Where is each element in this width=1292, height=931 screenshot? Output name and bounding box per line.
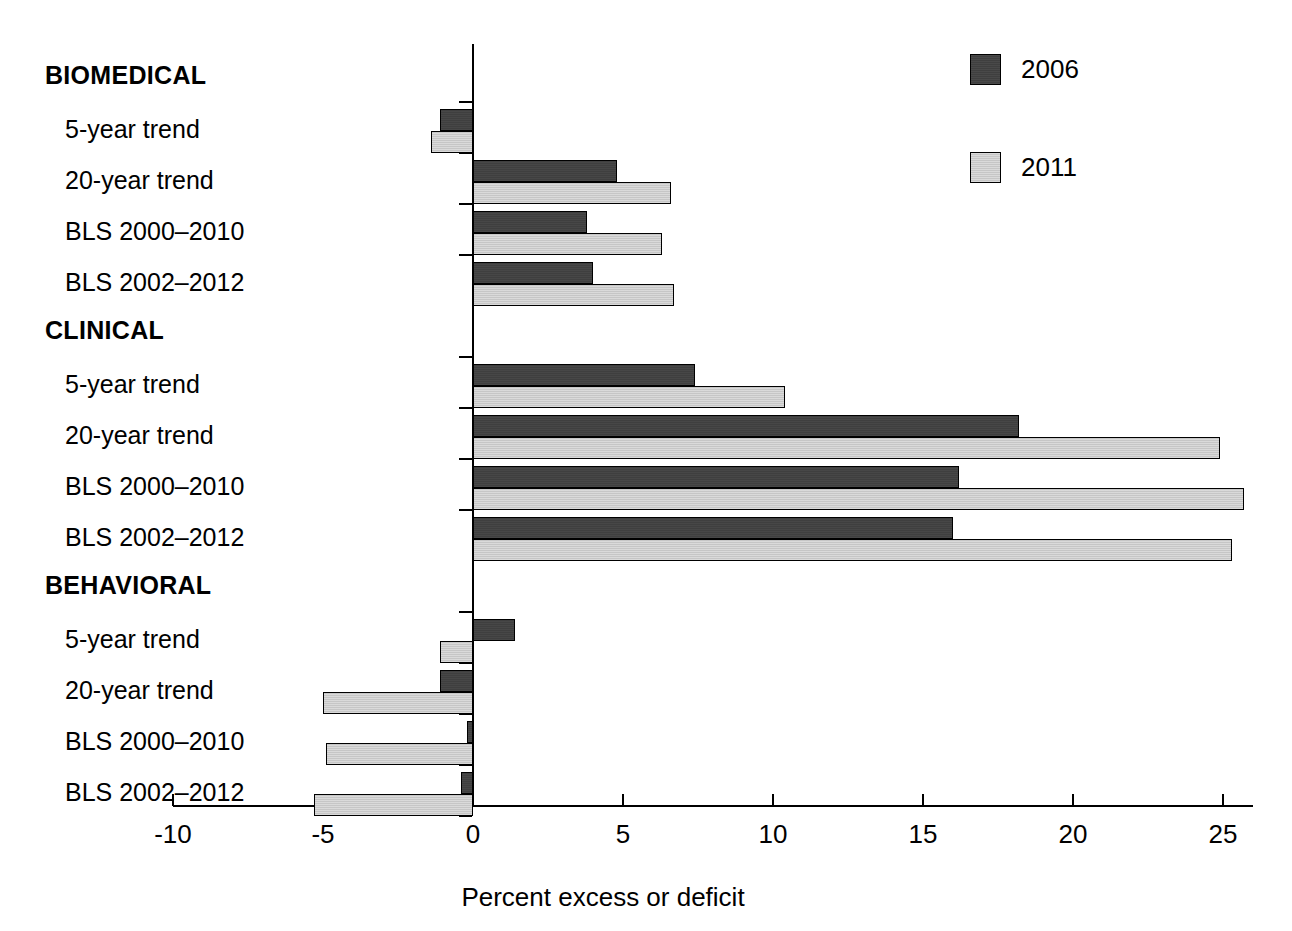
x-tick-label: 5 <box>616 819 630 850</box>
bar-2006 <box>473 160 617 182</box>
legend-swatch-2006 <box>970 54 1001 85</box>
x-axis-title: Percent excess or deficit <box>461 882 744 913</box>
legend-item-2006[interactable]: 2006 <box>970 54 1079 85</box>
legend-label-2011: 2011 <box>1021 152 1077 183</box>
bar-2006 <box>473 364 695 386</box>
x-tick <box>622 794 624 806</box>
bar-2006 <box>440 670 473 692</box>
bar-2011 <box>323 692 473 714</box>
x-tick-label: 10 <box>759 819 788 850</box>
group-header-biomedical: BIOMEDICAL <box>45 61 206 90</box>
x-tick-label: -5 <box>311 819 334 850</box>
bar-2006 <box>473 262 593 284</box>
legend-item-2011[interactable]: 2011 <box>970 152 1077 183</box>
x-tick-label: 15 <box>909 819 938 850</box>
bar-chart: BIOMEDICAL5-year trend20-year trendBLS 2… <box>0 0 1292 931</box>
bar-2006 <box>473 466 959 488</box>
bar-2011 <box>473 284 674 306</box>
y-tick <box>459 356 472 358</box>
group-header-behavioral: BEHAVIORAL <box>45 571 211 600</box>
row-label: BLS 2000–2010 <box>65 727 244 756</box>
y-tick <box>459 203 472 205</box>
bar-2006 <box>473 619 515 641</box>
x-tick <box>1072 794 1074 806</box>
row-label: BLS 2002–2012 <box>65 523 244 552</box>
bar-2011 <box>326 743 473 765</box>
bar-2011 <box>314 794 473 816</box>
row-label: 5-year trend <box>65 625 200 654</box>
plot-area: BIOMEDICAL5-year trend20-year trendBLS 2… <box>0 0 1292 931</box>
row-label: BLS 2002–2012 <box>65 778 244 807</box>
bar-2006 <box>473 211 587 233</box>
bar-2006 <box>473 415 1019 437</box>
legend-swatch-2011 <box>970 152 1001 183</box>
row-label: 20-year trend <box>65 676 214 705</box>
bar-2011 <box>473 182 671 204</box>
bar-2006 <box>440 109 473 131</box>
bar-2006 <box>461 772 473 794</box>
x-tick <box>772 794 774 806</box>
bar-2011 <box>473 539 1232 561</box>
bar-2011 <box>473 437 1220 459</box>
bar-2006 <box>467 721 473 743</box>
x-tick-label: -10 <box>154 819 192 850</box>
y-tick <box>459 407 472 409</box>
y-tick <box>459 254 472 256</box>
y-tick <box>459 509 472 511</box>
x-tick-label: 0 <box>466 819 480 850</box>
row-label: 5-year trend <box>65 370 200 399</box>
bar-2011 <box>440 641 473 663</box>
x-tick <box>1222 794 1224 806</box>
x-tick <box>922 794 924 806</box>
row-label: BLS 2002–2012 <box>65 268 244 297</box>
row-label: 20-year trend <box>65 166 214 195</box>
bar-2006 <box>473 517 953 539</box>
bar-2011 <box>473 488 1244 510</box>
y-tick <box>459 611 472 613</box>
y-tick <box>459 458 472 460</box>
bar-2011 <box>473 233 662 255</box>
row-label: BLS 2000–2010 <box>65 472 244 501</box>
bar-2011 <box>473 386 785 408</box>
x-tick-label: 20 <box>1059 819 1088 850</box>
row-label: 5-year trend <box>65 115 200 144</box>
row-label: BLS 2000–2010 <box>65 217 244 246</box>
y-tick <box>459 101 472 103</box>
group-header-clinical: CLINICAL <box>45 316 164 345</box>
bar-2011 <box>431 131 473 153</box>
legend-label-2006: 2006 <box>1021 54 1079 85</box>
x-tick-label: 25 <box>1209 819 1238 850</box>
row-label: 20-year trend <box>65 421 214 450</box>
